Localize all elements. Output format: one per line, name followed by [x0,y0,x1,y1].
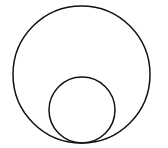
diagram-canvas [0,0,168,148]
inner-circle [49,77,115,143]
outer-circle [13,6,150,143]
